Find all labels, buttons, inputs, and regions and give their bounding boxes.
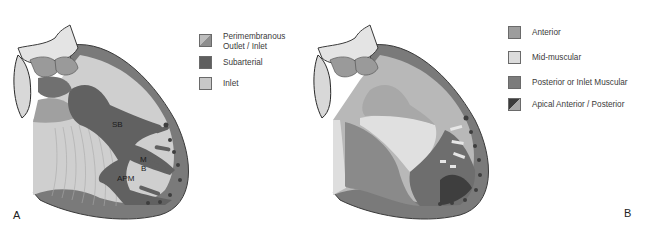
legend-item-mid-muscular: Mid-muscular xyxy=(508,51,581,64)
swatch-icon xyxy=(199,56,212,69)
legend-label: Subarterial xyxy=(223,58,263,68)
label-apm: APM xyxy=(117,174,135,183)
panel-label-b: B xyxy=(624,207,631,219)
legend-label: Inlet xyxy=(223,79,238,89)
swatch-split-icon xyxy=(508,98,521,111)
swatch-icon xyxy=(199,77,212,90)
legend-item-anterior: Anterior xyxy=(508,26,561,39)
legend-label: Anterior xyxy=(532,28,561,38)
label-sb: SB xyxy=(112,120,123,129)
label-mb-b: B xyxy=(141,164,146,173)
legend-item-inlet: Inlet xyxy=(199,77,238,90)
heart-septum-diagram-a: SB M B APM xyxy=(0,0,200,232)
legend-label: Perimembranous xyxy=(223,32,285,42)
swatch-icon xyxy=(508,76,521,89)
legend-label: Apical Anterior / Posterior xyxy=(532,100,624,110)
panel-b: Anterior Mid-muscular Posterior or Inlet… xyxy=(290,0,646,232)
legend-item-apical: Apical Anterior / Posterior xyxy=(508,98,624,111)
swatch-icon xyxy=(508,51,521,64)
swatch-split-icon xyxy=(199,34,212,47)
legend-label: Posterior or Inlet Muscular xyxy=(532,78,628,88)
legend-label: Mid-muscular xyxy=(532,53,581,63)
legend-label: Outlet / Inlet xyxy=(223,42,285,52)
legend-item-subarterial: Subarterial xyxy=(199,56,263,69)
swatch-icon xyxy=(508,26,521,39)
panel-label-a: A xyxy=(13,209,20,221)
label-mb-m: M xyxy=(140,155,147,164)
heart-septum-diagram-b xyxy=(300,0,515,232)
legend-item-perimembranous: Perimembranous Outlet / Inlet xyxy=(199,34,285,52)
legend-item-posterior: Posterior or Inlet Muscular xyxy=(508,76,628,89)
panel-a: SB M B APM Perimembranous Outlet / Inlet… xyxy=(0,0,310,232)
